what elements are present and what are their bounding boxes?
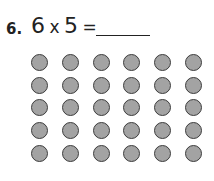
- array-dot: [62, 99, 79, 116]
- array-dot: [154, 145, 171, 162]
- array-dot: [123, 122, 140, 139]
- array-dot: [185, 145, 202, 162]
- problem-number: 6.: [6, 21, 22, 37]
- dot-array: [31, 54, 207, 164]
- array-dot: [93, 145, 110, 162]
- array-dot: [31, 77, 48, 94]
- array-dot: [31, 54, 48, 71]
- operand-a: 6: [31, 14, 46, 38]
- array-dot: [62, 54, 79, 71]
- operand-b: 5: [64, 14, 79, 38]
- array-dot: [62, 122, 79, 139]
- multiply-sign: x: [50, 15, 61, 39]
- array-dot: [123, 54, 140, 71]
- array-dot: [123, 145, 140, 162]
- array-dot: [185, 122, 202, 139]
- array-dot: [31, 145, 48, 162]
- array-dot: [93, 54, 110, 71]
- array-dot: [154, 77, 171, 94]
- array-dot: [154, 99, 171, 116]
- array-dot: [31, 122, 48, 139]
- array-dot: [154, 122, 171, 139]
- array-dot: [185, 77, 202, 94]
- array-dot: [123, 99, 140, 116]
- array-dot: [123, 77, 140, 94]
- array-dot: [154, 54, 171, 71]
- array-dot: [62, 77, 79, 94]
- array-dot: [185, 54, 202, 71]
- array-dot: [93, 77, 110, 94]
- array-dot: [31, 99, 48, 116]
- array-dot: [93, 122, 110, 139]
- array-dot: [93, 99, 110, 116]
- equation: 6x5=: [31, 14, 97, 39]
- array-dot: [185, 99, 202, 116]
- answer-blank[interactable]: [96, 35, 150, 36]
- array-dot: [62, 145, 79, 162]
